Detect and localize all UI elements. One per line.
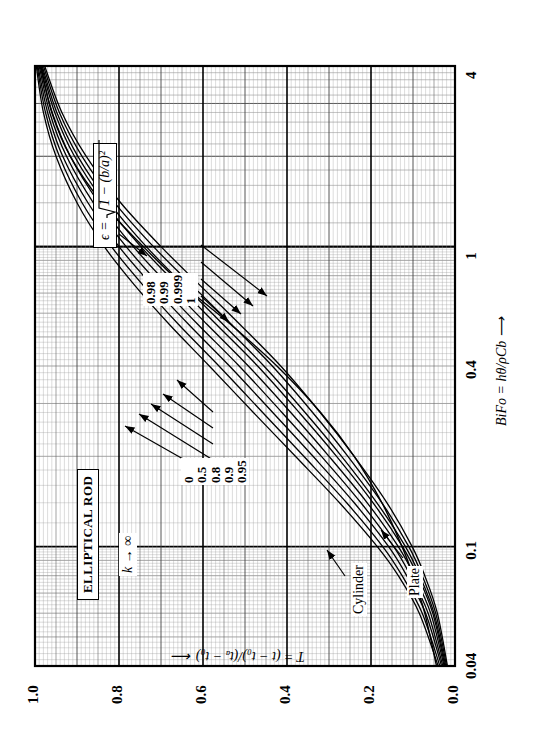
- plate-annotation-label: Plate: [407, 566, 423, 598]
- k-to-infinity-annotation: k → ∞: [119, 533, 137, 576]
- curve-label-0.98: 0.98: [144, 275, 157, 304]
- y-tick-0.4: 0.4: [277, 685, 294, 704]
- x-axis-title: BiFo = hθ/ρCb ⟶: [493, 317, 510, 426]
- curve-label-group-right: 0.980.990.9991: [143, 273, 198, 306]
- x-tick-4: 4: [463, 72, 480, 80]
- y-tick-0.0: 0.0: [445, 685, 462, 704]
- epsilon-formula-box: ϵ = 1 − (b/a)²: [93, 143, 117, 248]
- curve-label-group-left: 00.50.80.90.95: [181, 458, 249, 485]
- curve-label-0.99: 0.99: [157, 275, 170, 304]
- radical-sign-icon: [98, 208, 116, 218]
- y-tick-0.2: 0.2: [361, 685, 378, 704]
- y-tick-1.0: 1.0: [25, 685, 42, 704]
- y-axis-title: T = (t − t₀)/(tₐ − t₀) ⟵: [109, 648, 369, 665]
- y-tick-0.6: 0.6: [193, 685, 210, 704]
- curve-label-0: 0: [182, 460, 195, 483]
- curve-label-0.9: 0.9: [222, 460, 235, 483]
- plot-wrapper: 0.040.10.414 0.00.20.40.60.81.0 BiFo = h…: [15, 15, 526, 726]
- cylinder-annotation-label: Cylinder: [351, 563, 367, 616]
- chart-page: 0.040.10.414 0.00.20.40.60.81.0 BiFo = h…: [0, 0, 541, 741]
- elliptical-rod-title-box: ELLIPTICAL ROD: [77, 469, 99, 600]
- curve-label-1: 1: [184, 275, 197, 304]
- epsilon-symbol: ϵ: [97, 234, 112, 240]
- curve-label-0.95: 0.95: [235, 460, 248, 483]
- y-tick-0.8: 0.8: [109, 685, 126, 704]
- curve-label-0.8: 0.8: [209, 460, 222, 483]
- epsilon-equals: =: [97, 221, 112, 230]
- curve-label-0.999: 0.999: [171, 275, 184, 304]
- x-tick-0.04: 0.04: [463, 653, 480, 679]
- chart-background: [15, 15, 526, 726]
- x-tick-1: 1: [463, 252, 480, 260]
- epsilon-radical: 1 − (b/a)²: [97, 151, 113, 218]
- chart-svg: [15, 15, 526, 726]
- x-tick-0.1: 0.1: [463, 541, 480, 560]
- x-tick-0.4: 0.4: [463, 360, 480, 379]
- figure-rotated-container: 0.040.10.414 0.00.20.40.60.81.0 BiFo = h…: [15, 15, 526, 726]
- curve-label-0.5: 0.5: [195, 460, 208, 483]
